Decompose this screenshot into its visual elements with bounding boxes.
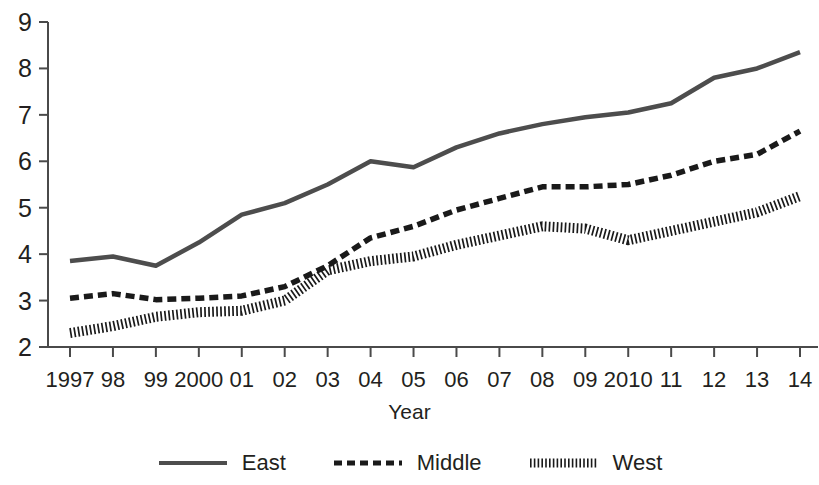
x-axis-tick-label: 99 [144,369,168,391]
y-axis-ticks [39,22,48,347]
axes [48,22,818,347]
y-axis-tick-label: 8 [2,56,32,81]
x-axis-tick-label: 1997 [46,369,95,391]
x-axis-tick-label: 98 [101,369,125,391]
legend-label-west: West [613,452,663,474]
legend-swatch-middle [332,456,404,470]
legend-item-middle: Middle [332,452,482,474]
x-axis-tick-label: 12 [702,369,726,391]
x-axis-tick-label: 09 [573,369,597,391]
legend-swatch-west [528,456,600,470]
x-axis-tick-label: 2000 [174,369,223,391]
legend-swatch-east [157,456,229,470]
series-line-east [70,52,800,266]
x-axis-ticks [70,347,800,357]
legend-item-east: East [157,452,286,474]
y-axis-tick-label: 3 [2,288,32,313]
legend-label-east: East [242,452,286,474]
x-axis-title: Year [0,400,819,424]
y-axis-tick-label: 9 [2,10,32,35]
y-axis-tick-label: 2 [2,335,32,360]
chart-legend: East Middle West [0,452,819,474]
legend-item-west: West [528,452,663,474]
x-axis-tick-label: 04 [358,369,382,391]
x-axis-tick-label: 06 [444,369,468,391]
legend-label-middle: Middle [417,452,482,474]
x-axis-tick-label: 05 [401,369,425,391]
y-axis-tick-label: 5 [2,195,32,220]
x-axis-tick-label: 11 [660,369,683,391]
x-axis-tick-label: 2010 [604,369,653,391]
x-axis-tick-label: 01 [230,369,254,391]
x-axis-tick-label: 14 [788,369,812,391]
y-axis-tick-label: 6 [2,149,32,174]
y-axis-tick-label: 4 [2,242,32,267]
data-series-group [70,52,800,333]
y-axis-tick-label: 7 [2,102,32,127]
line-chart: 98765432 1997989920000102030405060708092… [0,0,819,485]
x-axis-tick-label: 13 [745,369,769,391]
x-axis-tick-label: 08 [530,369,554,391]
x-axis-tick-label: 03 [315,369,339,391]
x-axis-tick-label: 07 [487,369,511,391]
x-axis-tick-label: 02 [272,369,296,391]
